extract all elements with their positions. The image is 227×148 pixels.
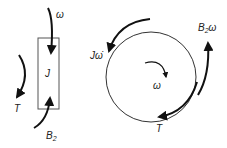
angular-velocity-label: ω <box>153 80 161 91</box>
free-body-diagram: J ω T B2 ω Jω̇ B2ω T <box>0 0 227 148</box>
applied-torque-label: T <box>156 123 163 134</box>
inertial-torque-arrow <box>109 19 150 51</box>
angular-velocity-arrow <box>145 62 166 77</box>
inertia-label: J <box>44 68 51 79</box>
damping-label: B2 <box>46 130 57 142</box>
inertia-block-diagram: J ω T B2 <box>14 8 64 142</box>
disk-circle <box>106 32 196 122</box>
torque-arrow <box>17 55 25 97</box>
damping-torque-label: B2ω <box>198 22 217 34</box>
omega-input-arrow <box>48 8 52 53</box>
damping-torque-arrow <box>198 43 208 95</box>
inertial-torque-label: Jω̇ <box>89 50 104 61</box>
applied-torque-arrow <box>159 82 197 117</box>
damping-arrow <box>34 98 50 128</box>
torque-label: T <box>14 103 21 114</box>
omega-label: ω <box>56 9 64 20</box>
rotating-disk-diagram: ω Jω̇ B2ω T <box>89 19 217 134</box>
